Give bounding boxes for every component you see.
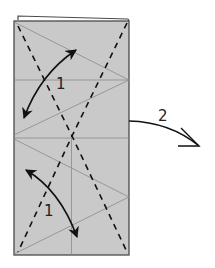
step-label-1-bottom: 1 xyxy=(44,202,54,220)
step-label-2: 2 xyxy=(158,107,168,125)
turn-over-arrowhead-icon xyxy=(178,128,199,146)
back-layer-edge xyxy=(18,16,129,21)
origami-diagram: 1 1 2 xyxy=(0,0,215,268)
step-label-1-top: 1 xyxy=(56,75,66,93)
